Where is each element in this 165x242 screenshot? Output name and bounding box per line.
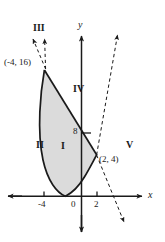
dashed-ray-lower-right [97,155,124,222]
dashed-ray-upper-left [33,39,46,69]
x-axis-label: x [148,190,152,200]
region-label-i: I [61,141,65,151]
point-label-minus4-16: (-4, 16) [4,58,31,67]
x-tick-label-minus4: -4 [38,200,46,209]
dashed-ray-upper-right [97,35,118,155]
point-label-2-4: (2, 4) [99,155,119,164]
x-tick-label-2: 2 [94,200,99,209]
parabola-region-diagram: (-4, 16) (2, 4) -4 0 2 8 x y I II III IV… [0,0,165,242]
y-axis-label: y [78,20,82,30]
dashed-ray-upper-steep [45,39,46,69]
region-label-ii: II [36,140,44,150]
diagram-canvas [0,0,165,242]
x-tick-label-0: 0 [71,200,76,209]
region-label-iv: IV [73,84,84,94]
y-tick-label-8: 8 [73,127,78,136]
region-label-iii: III [33,23,45,33]
region-label-v: V [126,140,133,150]
